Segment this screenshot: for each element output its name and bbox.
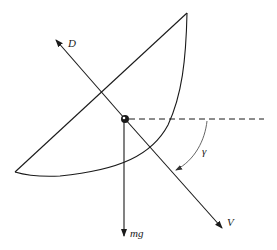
weight-label: mg <box>130 228 143 239</box>
drag-label: D <box>68 38 76 49</box>
center-of-mass-icon <box>121 115 129 123</box>
free-body-diagram <box>0 0 277 250</box>
sail-outline <box>15 13 187 176</box>
velocity-label: V <box>227 217 234 228</box>
gamma-label: γ <box>202 146 206 157</box>
velocity-vector-arrow <box>125 119 222 228</box>
